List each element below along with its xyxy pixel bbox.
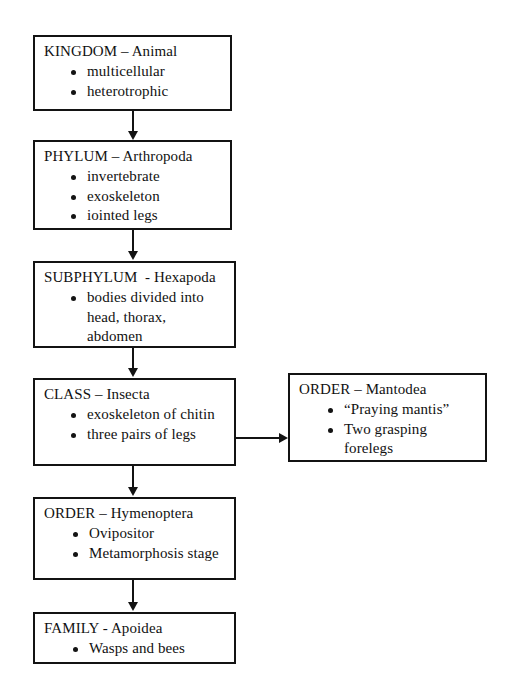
node-family-bullets: Wasps and bees: [35, 638, 234, 659]
node-family[interactable]: FAMILY - Apoidea Wasps and bees: [33, 612, 236, 664]
list-item: exoskeleton of chitin: [71, 405, 224, 425]
node-order-hymenoptera-title: ORDER – Hymenoptera: [35, 499, 234, 523]
arrowhead-down-icon: [128, 487, 138, 496]
node-subphylum[interactable]: SUBPHYLUM - Hexapoda bodies divided into…: [33, 261, 236, 348]
list-item: Metamorphosis stage: [73, 544, 222, 564]
node-phylum-bullets: invertebrate exoskeleton iointed legs: [35, 166, 230, 226]
list-item: “Praying mantis”: [328, 400, 473, 420]
list-item: multicellular: [71, 62, 230, 82]
node-phylum-title: PHYLUM – Arthropoda: [35, 142, 230, 166]
node-kingdom[interactable]: KINGDOM – Animal multicellular heterotro…: [33, 35, 232, 111]
arrowhead-down-icon: [128, 368, 138, 377]
node-family-title: FAMILY - Apoidea: [35, 614, 234, 638]
connector-subphylum-to-class: [132, 348, 134, 378]
connector-line: [132, 230, 134, 252]
node-subphylum-bullets: bodies divided into head, thorax, abdome…: [35, 287, 234, 347]
arrowhead-down-icon: [128, 131, 138, 140]
list-item: three pairs of legs: [71, 425, 224, 445]
arrowhead-right-icon: [279, 433, 288, 443]
node-class-bullets: exoskeleton of chitin three pairs of leg…: [35, 404, 234, 444]
connector-line: [132, 466, 134, 488]
connector-kingdom-to-phylum: [132, 111, 134, 140]
taxonomy-flowchart: KINGDOM – Animal multicellular heterotro…: [0, 0, 515, 681]
list-item: Two grasping forelegs: [328, 420, 473, 459]
arrowhead-down-icon: [128, 251, 138, 260]
connector-phylum-to-subphylum: [132, 230, 134, 261]
list-item: heterotrophic: [71, 82, 230, 102]
list-item: bodies divided into head, thorax, abdome…: [71, 288, 222, 347]
node-order-hymenoptera-bullets: Ovipositor Metamorphosis stage: [35, 523, 234, 563]
node-kingdom-title: KINGDOM – Animal: [35, 37, 230, 61]
node-subphylum-title: SUBPHYLUM - Hexapoda: [35, 263, 234, 287]
list-item: Ovipositor: [73, 524, 222, 544]
connector-hymenoptera-to-family: [132, 580, 134, 612]
node-class[interactable]: CLASS – Insecta exoskeleton of chitin th…: [33, 378, 236, 466]
connector-line: [132, 580, 134, 603]
node-order-mantodea-bullets: “Praying mantis” Two grasping forelegs: [290, 399, 485, 459]
list-item: exoskeleton: [71, 187, 230, 207]
node-order-mantodea[interactable]: ORDER – Mantodea “Praying mantis” Two gr…: [288, 373, 487, 462]
connector-line: [132, 348, 134, 369]
connector-class-to-hymenoptera: [132, 466, 134, 497]
list-item: invertebrate: [71, 167, 230, 187]
node-kingdom-bullets: multicellular heterotrophic: [35, 61, 230, 101]
node-order-mantodea-title: ORDER – Mantodea: [290, 375, 485, 399]
node-phylum[interactable]: PHYLUM – Arthropoda invertebrate exoskel…: [33, 140, 232, 230]
connector-line: [236, 437, 280, 439]
node-class-title: CLASS – Insecta: [35, 380, 234, 404]
list-item: iointed legs: [71, 206, 230, 226]
arrowhead-down-icon: [128, 602, 138, 611]
connector-line: [132, 111, 134, 132]
node-order-hymenoptera[interactable]: ORDER – Hymenoptera Ovipositor Metamorph…: [33, 497, 236, 580]
connector-class-to-mantodea: [236, 437, 288, 439]
list-item: Wasps and bees: [73, 639, 234, 659]
